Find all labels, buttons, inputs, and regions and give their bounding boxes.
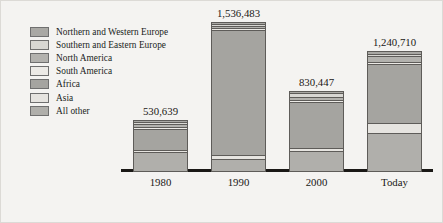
legend-swatch-icon — [30, 53, 49, 63]
bar-group: 1,240,710Today — [367, 49, 422, 172]
x-axis-tick-label: Today — [381, 176, 408, 188]
bar-segment[interactable] — [368, 134, 421, 172]
legend-swatch-icon — [30, 27, 49, 37]
stacked-bar[interactable] — [133, 120, 188, 172]
legend-swatch-icon — [30, 93, 49, 103]
legend-item-label: South America — [56, 66, 112, 76]
stacked-bar[interactable] — [211, 22, 266, 172]
bar-segment[interactable] — [212, 31, 265, 156]
stacked-bar[interactable] — [367, 51, 422, 172]
bar-segment[interactable] — [290, 152, 343, 172]
bar-value-label: 530,639 — [143, 105, 178, 117]
bar-segment[interactable] — [368, 124, 421, 134]
legend-item-label: All other — [56, 106, 90, 116]
legend-swatch-icon — [30, 79, 49, 89]
legend-swatch-icon — [30, 66, 49, 76]
bar-value-label: 830,447 — [299, 76, 334, 88]
bar-group: 1,536,4831990 — [211, 20, 266, 172]
bar-value-label: 1,536,483 — [217, 7, 260, 19]
bar-segment[interactable] — [368, 65, 421, 124]
legend-item-label: Africa — [56, 79, 80, 89]
bar-segment[interactable] — [134, 153, 187, 172]
x-axis-tick-label: 1990 — [228, 176, 250, 188]
legend-item-label: Asia — [56, 93, 73, 103]
bar-value-label: 1,240,710 — [373, 36, 416, 48]
x-axis-tick-label: 1980 — [150, 176, 172, 188]
bar-segment[interactable] — [290, 103, 343, 149]
legend-item-label: North America — [56, 53, 112, 63]
x-axis-tick-label: 2000 — [306, 176, 328, 188]
bar-segment[interactable] — [212, 160, 265, 172]
bar-group: 530,6391980 — [133, 118, 188, 172]
plot-area: 530,63919801,536,4831990830,44720001,240… — [121, 11, 433, 186]
stacked-bar[interactable] — [289, 91, 344, 172]
bar-segment[interactable] — [134, 130, 187, 151]
bar-group: 830,4472000 — [289, 89, 344, 172]
legend-swatch-icon — [30, 106, 49, 116]
legend-swatch-icon — [30, 40, 49, 50]
chart-figure: Northern and Western EuropeSouthern and … — [0, 0, 443, 223]
